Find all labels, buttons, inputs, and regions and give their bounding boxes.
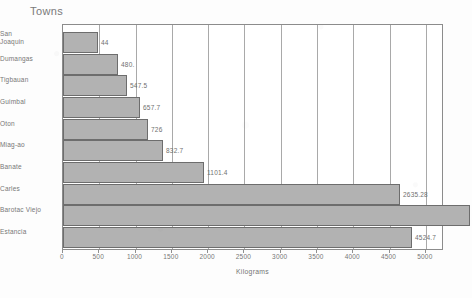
bar bbox=[63, 227, 412, 248]
bar bbox=[63, 97, 140, 118]
bar-value-label: 547.5 bbox=[130, 82, 147, 89]
category-label-line: Guimbal bbox=[0, 98, 54, 106]
category-label: SanJoaquin bbox=[0, 30, 54, 45]
bar-value-label: 2635.28 bbox=[403, 191, 428, 198]
category-label: Miag-ao bbox=[0, 141, 54, 149]
x-tick-label: 2500 bbox=[236, 253, 251, 260]
bar-chart-figure: Towns SanJoaquinDumangasTigbauanGuimbalO… bbox=[0, 0, 472, 298]
category-label-line: Joaquin bbox=[0, 38, 54, 46]
bar bbox=[63, 54, 118, 75]
bar bbox=[63, 75, 127, 96]
bar-row: 4524.7 bbox=[63, 227, 444, 248]
x-tick-label: 1000 bbox=[127, 253, 142, 260]
bar-row: 480. bbox=[63, 54, 444, 75]
category-label-line: Carles bbox=[0, 185, 54, 193]
x-tick-label: 3500 bbox=[308, 253, 323, 260]
category-label-line: Barotac Viejo bbox=[0, 206, 54, 214]
bar bbox=[63, 32, 98, 53]
bar-row: 2635.28 bbox=[63, 184, 444, 205]
category-label-line: Miag-ao bbox=[0, 141, 54, 149]
bar bbox=[63, 205, 470, 226]
category-label-line: Oton bbox=[0, 120, 54, 128]
category-label: Carles bbox=[0, 185, 54, 193]
category-label: Guimbal bbox=[0, 98, 54, 106]
bar bbox=[63, 162, 204, 183]
bar-value-label: 44 bbox=[101, 39, 109, 46]
bar-series-layer: 44480.547.5657.7726832.71101.42635.28318… bbox=[63, 25, 442, 249]
category-label-line: San bbox=[0, 30, 54, 38]
bar-value-label: 480. bbox=[121, 61, 134, 68]
category-label: Oton bbox=[0, 120, 54, 128]
bar-row: 547.5 bbox=[63, 75, 444, 96]
bar bbox=[63, 140, 163, 161]
category-label: Tigbauan bbox=[0, 76, 54, 84]
x-axis: 0500100015002000250030003500400045005000 bbox=[62, 250, 443, 264]
category-label: Dumangas bbox=[0, 55, 54, 63]
bar-row: 44 bbox=[63, 32, 444, 53]
category-label: Barotac Viejo bbox=[0, 206, 54, 214]
category-label-line: Banate bbox=[0, 163, 54, 171]
bar-row: 1101.4 bbox=[63, 162, 444, 183]
x-axis-title: Kilograms bbox=[62, 268, 443, 275]
bar-row: 832.7 bbox=[63, 140, 444, 161]
x-tick-label: 1500 bbox=[163, 253, 178, 260]
bar-value-label: 4524.7 bbox=[415, 234, 436, 241]
plot-area: 44480.547.5657.7726832.71101.42635.28318… bbox=[62, 24, 443, 250]
bar-row: 657.7 bbox=[63, 97, 444, 118]
bar bbox=[63, 119, 148, 140]
category-label: Banate bbox=[0, 163, 54, 171]
chart-title: Towns bbox=[30, 5, 63, 17]
bar-value-label: 726 bbox=[151, 126, 162, 133]
category-label-line: Tigbauan bbox=[0, 76, 54, 84]
x-tick-label: 0 bbox=[60, 253, 64, 260]
category-label: Estancia bbox=[0, 228, 54, 236]
bar-value-label: 657.7 bbox=[143, 104, 160, 111]
bar bbox=[63, 184, 400, 205]
x-tick-label: 2000 bbox=[200, 253, 215, 260]
category-label-line: Dumangas bbox=[0, 55, 54, 63]
x-tick-label: 500 bbox=[93, 253, 104, 260]
x-tick-label: 5000 bbox=[417, 253, 432, 260]
x-tick-label: 4500 bbox=[381, 253, 396, 260]
bar-value-label: 832.7 bbox=[166, 147, 183, 154]
bar-row: 726 bbox=[63, 119, 444, 140]
category-axis-labels: SanJoaquinDumangasTigbauanGuimbalOtonMia… bbox=[0, 24, 60, 250]
bar-row: 3185.9 bbox=[63, 205, 444, 226]
category-label-line: Estancia bbox=[0, 228, 54, 236]
x-tick-label: 4000 bbox=[345, 253, 360, 260]
x-tick-label: 3000 bbox=[272, 253, 287, 260]
bar-value-label: 1101.4 bbox=[207, 169, 228, 176]
